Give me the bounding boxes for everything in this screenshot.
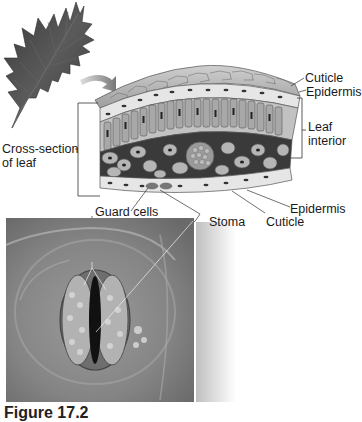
label-leaf-interior-line1: Leaf bbox=[308, 120, 332, 134]
oak-leaf-icon bbox=[4, 2, 94, 128]
leaf-cross-section-illustration bbox=[95, 65, 300, 192]
label-guard-cells: Guard cells bbox=[95, 205, 158, 219]
label-cross-section-line1: Cross-section bbox=[2, 142, 78, 156]
label-stoma: Stoma bbox=[209, 215, 245, 229]
label-epidermis-bottom: Epidermis bbox=[290, 202, 346, 216]
label-cross-section-line2: of leaf bbox=[2, 156, 36, 170]
curved-arrow-icon bbox=[80, 75, 116, 92]
stoma-micrograph-photo bbox=[6, 218, 236, 402]
cross-section-bracket bbox=[75, 103, 100, 196]
label-cuticle-bottom: Cuticle bbox=[266, 215, 304, 229]
label-cuticle-top: Cuticle bbox=[305, 71, 343, 85]
figure-caption: Figure 17.2 bbox=[4, 404, 88, 422]
label-leaf-interior-line2: interior bbox=[308, 134, 346, 148]
label-epidermis-top: Epidermis bbox=[306, 85, 362, 99]
